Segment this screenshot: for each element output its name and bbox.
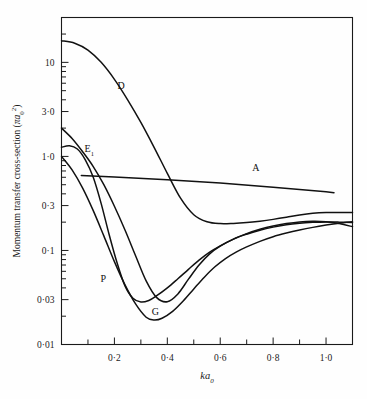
curve-label-D: D [117, 80, 124, 91]
y-axis-title-close: ) [12, 105, 23, 108]
curve-label-P: P [101, 273, 107, 284]
chart-background [0, 0, 367, 399]
y-tick-label: 0·3 [42, 201, 55, 211]
x-axis-title-text: ka [200, 370, 210, 381]
x-axis-title-subscript: 0 [210, 377, 214, 385]
y-tick-label: 10 [45, 58, 55, 68]
y-axis-title-pi-a: πa [12, 114, 22, 124]
y-tick-label: 0·01 [37, 340, 55, 350]
y-tick-label: 0·1 [42, 246, 55, 256]
momentum-transfer-cross-section-chart: 0·20·40·60·81·0 0·010·030·10·31·03·010 D… [0, 0, 367, 399]
x-tick-label: 0·6 [214, 353, 227, 363]
x-tick-label: 1·0 [320, 353, 333, 363]
curve-label-A: A [252, 162, 260, 173]
y-tick-label: 0·03 [37, 295, 55, 305]
curve-label-G: G [152, 306, 159, 317]
y-tick-label: 1·0 [42, 152, 55, 162]
y-axis-title-subscript: 0 [18, 111, 26, 115]
x-tick-label: 0·4 [161, 353, 174, 363]
figure-container: 0·20·40·60·81·0 0·010·030·10·31·03·010 D… [0, 0, 367, 399]
x-tick-label: 0·8 [267, 353, 280, 363]
y-tick-label: 3·0 [42, 107, 55, 117]
y-axis-title-text: Momentum transfer cross-section ( [12, 124, 23, 257]
x-tick-label: 0·2 [108, 353, 121, 363]
